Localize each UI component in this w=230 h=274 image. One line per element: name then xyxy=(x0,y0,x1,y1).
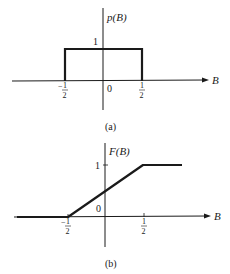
figure-a: p(B) B 1 0 − 1 2 1 2 (a) xyxy=(12,8,219,133)
a-x-tick-pos-num: 1 xyxy=(140,81,144,90)
figure-canvas: p(B) B 1 0 − 1 2 1 2 (a) F(B) B 1 0 − 1 xyxy=(0,0,230,274)
b-x-label: B xyxy=(214,210,221,222)
b-y-tick-1: 1 xyxy=(95,160,100,171)
a-origin-label: 0 xyxy=(107,83,112,94)
b-x-axis-arrow-icon xyxy=(204,214,211,219)
a-y-tick-1: 1 xyxy=(93,36,98,47)
a-x-axis xyxy=(12,80,205,81)
b-x-tick-neg-num: 1 xyxy=(66,217,70,226)
a-y-label: p(B) xyxy=(106,11,127,24)
a-x-tick-neg-den: 2 xyxy=(63,91,67,100)
a-x-axis-arrow-icon xyxy=(202,78,209,83)
b-y-label: F(B) xyxy=(108,145,130,158)
a-x-tick-pos-den: 2 xyxy=(140,91,144,100)
a-caption: (a) xyxy=(105,121,116,133)
b-x-tick-pos-num: 1 xyxy=(142,217,146,226)
b-x-tick-pos-den: 2 xyxy=(142,227,146,236)
figure-b: F(B) B 1 0 − 1 2 1 2 (b) xyxy=(14,143,221,270)
b-caption: (b) xyxy=(105,258,117,270)
b-x-tick-neg-den: 2 xyxy=(66,227,70,236)
a-x-tick-neg-num: 1 xyxy=(63,81,67,90)
b-origin-label: 0 xyxy=(96,203,101,214)
a-x-label: B xyxy=(212,74,219,86)
